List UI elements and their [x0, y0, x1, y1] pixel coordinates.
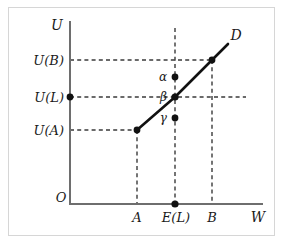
point-u-l-on-axis: [67, 94, 74, 101]
point-e-l-on-axis: [171, 200, 178, 207]
annotation-alpha: α: [159, 70, 167, 84]
y-axis-label: U: [51, 17, 64, 33]
point-beta: [171, 93, 178, 100]
y-tick-label-u-l: U(L): [34, 90, 64, 105]
figure-container: U W O U(B) U(L) U(A) A E(L) B α β γ D: [0, 0, 283, 245]
point-gamma: [172, 115, 179, 122]
x-tick-label-a: A: [131, 210, 141, 225]
x-tick-label-b: B: [206, 210, 217, 225]
point-a-kink: [134, 127, 141, 134]
utility-wealth-plot: U W O U(B) U(L) U(A) A E(L) B α β γ D: [0, 0, 283, 245]
point-alpha: [172, 74, 179, 81]
x-tick-label-e-l: E(L): [161, 210, 190, 225]
annotation-beta: β: [159, 90, 167, 104]
utility-curve-d: [137, 44, 228, 130]
origin-label: O: [56, 190, 67, 205]
point-b: [209, 57, 216, 64]
y-tick-label-u-a: U(A): [34, 123, 65, 138]
x-axis-label: W: [251, 209, 267, 225]
annotation-gamma: γ: [160, 111, 168, 125]
y-tick-label-u-b: U(B): [33, 53, 64, 68]
curve-label-d: D: [229, 27, 241, 43]
